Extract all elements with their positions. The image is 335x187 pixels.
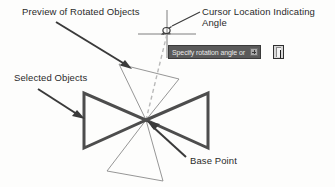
cursor-leader-line	[172, 12, 200, 26]
rotation-angle-input[interactable]	[273, 45, 284, 59]
text-caret	[280, 50, 281, 58]
command-prompt-text: Specify rotation angle or	[172, 49, 245, 56]
rotate-cursor-icon	[161, 27, 172, 35]
label-preview-of-rotated-objects: Preview of Rotated Objects	[22, 6, 140, 17]
label-cursor-location-indicating-angle: Cursor Location Indicating Angle	[202, 6, 315, 28]
label-base-point: Base Point	[190, 155, 237, 166]
rotate-command-diagram	[0, 0, 335, 187]
base-point-leader-arrow	[147, 121, 186, 157]
selected-leader-arrow	[38, 89, 85, 119]
selected-objects-shape	[84, 93, 208, 148]
preview-leader-arrow	[56, 22, 132, 69]
figure-canvas: Preview of Rotated Objects Cursor Locati…	[0, 0, 335, 187]
command-prompt-box[interactable]: Specify rotation angle or	[168, 45, 261, 59]
plus-box-icon[interactable]	[250, 48, 258, 56]
input-inner-well	[276, 47, 281, 57]
label-selected-objects: Selected Objects	[14, 72, 87, 83]
